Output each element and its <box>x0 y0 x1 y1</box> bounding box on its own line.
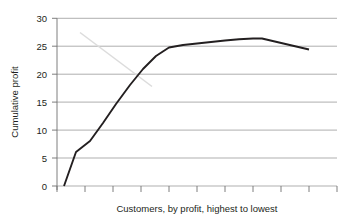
cumulative-profit-chart: 30 25 20 15 10 5 0 Cumulative profit <box>0 0 345 224</box>
y-tick-label-30: 30 <box>36 13 47 24</box>
y-tick-label-25: 25 <box>36 41 47 52</box>
chart-canvas: 30 25 20 15 10 5 0 Cumulative profit <box>0 0 345 224</box>
y-tick-label-20: 20 <box>36 69 47 80</box>
x-axis-title: Customers, by profit, highest to lowest <box>116 203 277 214</box>
chart-background <box>0 0 345 224</box>
y-tick-label-10: 10 <box>36 125 47 136</box>
y-axis-title: Cumulative profit <box>9 66 20 138</box>
y-tick-label-0: 0 <box>42 181 47 192</box>
y-tick-label-15: 15 <box>36 97 47 108</box>
y-tick-label-5: 5 <box>42 153 47 164</box>
